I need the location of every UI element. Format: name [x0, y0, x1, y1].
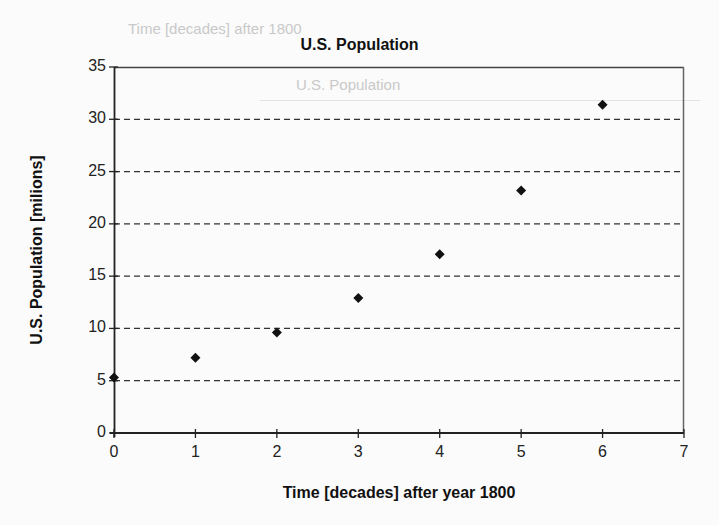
- y-tick-label: 35: [66, 58, 106, 74]
- y-tick-label: 20: [66, 215, 106, 231]
- plot-area: [114, 67, 684, 433]
- x-tick-label: 3: [338, 443, 378, 461]
- y-tick-label: 25: [66, 163, 106, 179]
- data-point-diamond: [353, 293, 363, 303]
- data-point-diamond: [190, 353, 200, 363]
- x-tick-label: 6: [583, 443, 623, 461]
- y-tick-label: 0: [66, 424, 106, 440]
- chart-title: U.S. Population: [0, 36, 719, 54]
- x-tick-label: 4: [420, 443, 460, 461]
- y-tick-label: 10: [66, 319, 106, 335]
- y-tick-label: 5: [66, 372, 106, 388]
- y-axis-label: U.S. Population [milions]: [28, 155, 46, 344]
- data-point-diamond: [272, 328, 282, 338]
- x-tick-label: 2: [257, 443, 297, 461]
- x-tick-label: 1: [175, 443, 215, 461]
- data-point-diamond: [598, 100, 608, 110]
- y-tick-label: 30: [66, 110, 106, 126]
- x-tick-label: 7: [664, 443, 704, 461]
- ghost-text-top: Time [decades] after 1800: [128, 20, 302, 37]
- x-tick-label: 0: [94, 443, 134, 461]
- data-point-diamond: [516, 185, 526, 195]
- y-tick-label: 15: [66, 267, 106, 283]
- data-point-diamond: [435, 249, 445, 259]
- scatter-plot: [114, 67, 684, 433]
- x-axis-label: Time [decades] after year 1800: [114, 484, 684, 502]
- x-tick-label: 5: [501, 443, 541, 461]
